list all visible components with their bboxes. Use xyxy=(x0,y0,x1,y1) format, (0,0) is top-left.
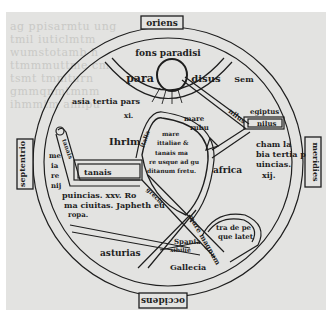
label-terra-2: que latet xyxy=(218,232,254,241)
label-italia: italia xyxy=(138,130,151,149)
label-para: para xyxy=(126,72,154,85)
label-sea-4: re usque ad gu xyxy=(149,158,200,166)
label-oriens: oriens xyxy=(146,18,178,28)
label-europa-1: puincias. xxv. Ro xyxy=(62,190,137,200)
label-spania: Spania xyxy=(174,237,201,246)
label-left-col: me xyxy=(49,151,61,160)
label-cham-2: bia tertia p xyxy=(256,149,306,159)
label-left-col: re xyxy=(51,171,60,180)
label-jerusalem: Ihrlm xyxy=(109,136,141,147)
label-asturias: asturias xyxy=(100,248,141,258)
label-sem: Sem xyxy=(234,74,254,84)
label-sea-5: ditanum fretu. xyxy=(147,167,196,174)
label-sea-1: mare xyxy=(162,130,179,137)
label-tanais-box: tanais xyxy=(84,167,112,177)
label-tanais-river: tanais xyxy=(61,138,75,160)
fountain-circle xyxy=(157,59,187,91)
label-rubrum: rubu xyxy=(190,123,209,132)
label-meridies: meridies xyxy=(311,142,321,182)
label-nilus-box: nilus xyxy=(257,119,276,128)
label-europa-3: ropa. xyxy=(68,210,88,219)
label-xibilie: xibilie xyxy=(170,246,191,253)
label-asia: asia tertia pars xyxy=(72,96,140,106)
label-sea-3: tanais ma xyxy=(155,149,188,156)
label-cham: cham la xyxy=(256,139,291,149)
label-disus: disus xyxy=(191,73,221,84)
label-occidens: occidens xyxy=(141,296,185,306)
label-fons-paradisi: fons paradisi xyxy=(135,48,201,58)
label-europa-2: ma ciuitas. Japheth eu xyxy=(64,200,165,210)
label-cham-4: xij. xyxy=(262,170,276,180)
label-gallecia: Gallecia xyxy=(170,262,206,272)
label-mare-rubrum: mare xyxy=(184,114,205,123)
label-sea-2: ittaliae & xyxy=(157,139,189,146)
label-cham-3: uincias. xyxy=(256,159,291,169)
nile-branch xyxy=(212,128,250,158)
label-africa: africa xyxy=(213,165,242,175)
label-left-col: nij xyxy=(51,181,61,190)
label-septentrio: septentrio xyxy=(17,140,27,187)
label-asia-count: xi. xyxy=(124,111,133,120)
label-terra-1: tra de pe xyxy=(216,223,252,232)
label-egiptus: egiptus xyxy=(250,107,279,116)
t-o-map: oriens occidens septentrio meridies fons… xyxy=(0,0,335,315)
label-left-col: ia xyxy=(51,161,59,170)
